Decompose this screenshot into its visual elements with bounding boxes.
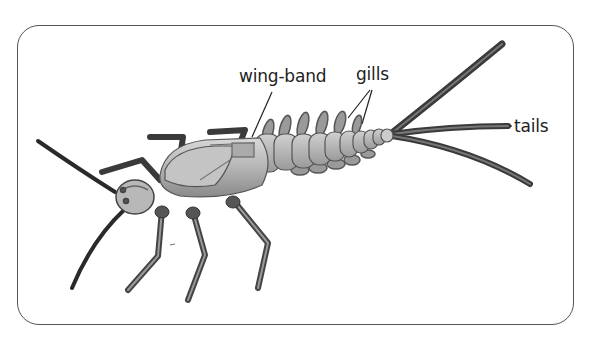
antennae [38, 141, 124, 288]
label-wing-band: wing-band [239, 68, 326, 85]
insect-illustration [0, 0, 592, 338]
thorax [160, 138, 268, 197]
head [116, 180, 154, 214]
tails-group [392, 44, 530, 184]
label-gills: gills [356, 66, 389, 83]
label-tails: tails [514, 118, 548, 135]
